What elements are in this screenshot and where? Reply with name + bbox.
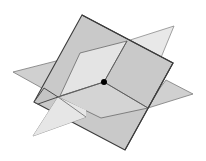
diagram-canvas: Three planes intersecting at a single po…: [0, 0, 206, 161]
three-planes-figure: [0, 0, 206, 161]
intersection-point: [101, 79, 107, 85]
